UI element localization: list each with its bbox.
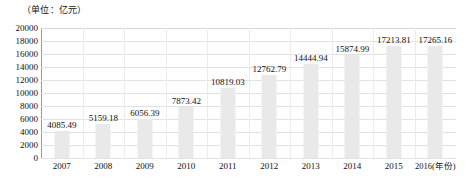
bar-slot: 5159.18 (83, 28, 125, 158)
bar[interactable] (262, 75, 277, 158)
bar[interactable] (54, 131, 69, 158)
y-axis-tick-label: 16000 (0, 50, 38, 59)
bar-slot: 17265.16 (415, 28, 457, 158)
bar[interactable] (96, 124, 111, 158)
x-axis-tick-label: 2007 (53, 161, 71, 172)
y-axis-tick-label: 2000 (0, 141, 38, 150)
x-axis-tick-labels: 2007200820092010201120122013201420152016… (41, 161, 456, 181)
y-axis-tick-label: 18000 (0, 37, 38, 46)
bar-value-label: 17265.16 (418, 35, 452, 45)
plot-area: 4085.495159.186056.397873.4210819.031276… (41, 28, 456, 158)
y-axis-tick-label: 4000 (0, 128, 38, 137)
x-axis-tick-label: 2014 (343, 161, 361, 172)
bar-value-label: 17213.81 (377, 35, 411, 45)
x-axis-tick-label: 2009 (136, 161, 154, 172)
y-axis-tick-label: 6000 (0, 115, 38, 124)
y-axis-tick-label: 8000 (0, 102, 38, 111)
bar-slot: 12762.79 (249, 28, 291, 158)
y-axis-tick-label: 12000 (0, 76, 38, 85)
bar[interactable] (137, 119, 152, 158)
bar-value-label: 7873.42 (172, 96, 201, 106)
bar-slot: 10819.03 (207, 28, 249, 158)
bar-value-label: 5159.18 (89, 113, 118, 123)
y-axis-tick-label: 14000 (0, 63, 38, 72)
bar-slot: 4085.49 (41, 28, 83, 158)
x-axis-tick-label: 2016(年份) (415, 161, 456, 172)
bar-value-label: 12762.79 (252, 64, 286, 74)
y-axis-tick-labels: 0200040006000800010000120001400016000180… (0, 28, 38, 158)
bar-value-label: 4085.49 (47, 120, 76, 130)
bar-value-label: 14444.94 (294, 53, 328, 63)
bar[interactable] (220, 88, 235, 158)
y-axis-tick-label: 0 (0, 154, 38, 163)
x-axis-tick-label: 2011 (219, 161, 237, 172)
bar-slot: 17213.81 (373, 28, 415, 158)
bar-slot: 15874.99 (332, 28, 374, 158)
gridline (41, 158, 456, 159)
y-axis-tick-label: 20000 (0, 24, 38, 33)
bar[interactable] (345, 55, 360, 158)
y-axis-tick-label: 10000 (0, 89, 38, 98)
bar[interactable] (179, 107, 194, 158)
x-axis-tick-label: 2010 (177, 161, 195, 172)
bar-slot: 7873.42 (166, 28, 208, 158)
bar[interactable] (428, 46, 443, 158)
bar-value-label: 10819.03 (211, 77, 245, 87)
unit-caption: （单位：亿元） (22, 4, 86, 16)
bar-chart: （单位：亿元） 02000400060008000100001200014000… (0, 0, 473, 189)
bar-slot: 6056.39 (124, 28, 166, 158)
bar[interactable] (386, 46, 401, 158)
bar-value-label: 6056.39 (130, 108, 159, 118)
x-axis-tick-label: 2013 (302, 161, 320, 172)
bar[interactable] (303, 64, 318, 158)
bar-value-label: 15874.99 (335, 44, 369, 54)
bar-slot: 14444.94 (290, 28, 332, 158)
x-axis-tick-label: 2012 (260, 161, 278, 172)
x-axis-tick-label: 2015 (385, 161, 403, 172)
x-axis-tick-label: 2008 (94, 161, 112, 172)
